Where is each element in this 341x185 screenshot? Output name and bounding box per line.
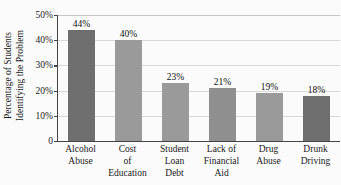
bar[interactable] <box>256 93 282 141</box>
y-axis-tick-mark <box>54 15 58 16</box>
x-axis-category-labels: AlcoholAbuseCostofEducationStudentLoanDe… <box>57 144 339 185</box>
bar[interactable] <box>162 83 188 141</box>
bar[interactable] <box>115 40 141 141</box>
x-axis-category-label-line: Aid <box>192 168 251 180</box>
bar-group: 40% <box>105 15 152 141</box>
y-axis-title-line-2: Identifying the Problem <box>14 30 26 121</box>
y-axis-tick-label: 20% <box>36 86 53 96</box>
bar[interactable] <box>68 30 94 141</box>
y-axis-tick-label: 40% <box>36 35 53 45</box>
x-axis-category-label-line: Drunk <box>286 144 341 156</box>
bar-value-label: 21% <box>199 77 246 87</box>
y-axis-title: Percentage of Students Identifying the P… <box>0 0 28 150</box>
y-axis-tick-label: 30% <box>36 60 53 70</box>
y-axis-tick-mark <box>54 65 58 66</box>
y-axis-tick-labels: 010%20%30%40%50% <box>26 0 56 150</box>
bar[interactable] <box>303 96 329 141</box>
y-axis-tick-mark <box>54 91 58 92</box>
bar[interactable] <box>209 88 235 141</box>
x-axis-category-label-line: Driving <box>286 156 341 168</box>
bar-value-label: 18% <box>293 85 340 95</box>
bar-value-label: 23% <box>152 72 199 82</box>
bars-layer: 44%40%23%21%19%18% <box>58 15 340 141</box>
bar-group: 21% <box>199 15 246 141</box>
bar-group: 44% <box>58 15 105 141</box>
y-axis-tick-label: 50% <box>36 10 53 20</box>
bar-value-label: 40% <box>105 29 152 39</box>
x-axis-line <box>57 141 340 142</box>
y-axis-tick-mark <box>54 116 58 117</box>
x-axis-category-label: DrunkDriving <box>286 144 341 168</box>
bar-value-label: 44% <box>58 19 105 29</box>
y-axis-title-line-1: Percentage of Students <box>3 30 15 121</box>
y-axis-tick-mark <box>54 40 58 41</box>
y-axis-tick-label: 10% <box>36 111 53 121</box>
bar-value-label: 19% <box>246 82 293 92</box>
bar-group: 19% <box>246 15 293 141</box>
plot-area: 44%40%23%21%19%18% <box>57 15 340 141</box>
bar-chart: Percentage of Students Identifying the P… <box>0 0 341 185</box>
bar-group: 18% <box>293 15 340 141</box>
bar-group: 23% <box>152 15 199 141</box>
